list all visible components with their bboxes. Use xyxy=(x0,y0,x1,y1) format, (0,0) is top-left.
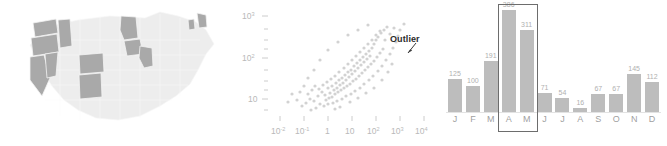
xtick-label-1: 1 xyxy=(325,126,330,136)
bar-d-11[interactable]: 112 xyxy=(645,6,659,112)
bar-n-10[interactable]: 145 xyxy=(627,6,641,112)
bar-o-9[interactable]: 67 xyxy=(609,6,623,112)
state-nm xyxy=(79,73,102,99)
scatter-plot-panel: 103 102 10 10-2 10-1 1 10 102 103 104 xyxy=(240,0,440,146)
state-vt xyxy=(188,19,195,30)
bar-s-8[interactable]: 67 xyxy=(591,6,605,112)
bar-chart-panel: 1251001913863117154166767145112 JFMAMJJA… xyxy=(440,0,667,146)
figure-canvas: 103 102 10 10-2 10-1 1 10 102 103 104 xyxy=(0,0,667,146)
bar-value-label: 67 xyxy=(603,85,629,93)
us-map-svg xyxy=(0,0,240,146)
bar-j-0[interactable]: 125 xyxy=(448,6,462,112)
outlier-annotation-label: Outlier xyxy=(390,34,420,44)
bar-a-7[interactable]: 16 xyxy=(573,6,587,112)
state-me xyxy=(197,13,207,28)
bar-rect xyxy=(591,94,605,112)
scatter-svg: 103 102 10 10-2 10-1 1 10 102 103 104 xyxy=(240,0,440,146)
state-mn xyxy=(120,16,138,40)
bar-value-label: 112 xyxy=(639,73,665,81)
scatter-points xyxy=(286,22,405,111)
xtick-label-10: 10 xyxy=(345,126,355,136)
bar-chart-baseline xyxy=(446,112,661,113)
xtick-label-0.01: 10-2 xyxy=(271,126,285,136)
bar-chart-plot-area: 1251001913863117154166767145112 xyxy=(446,6,661,112)
ytick-label-1000: 103 xyxy=(242,11,255,21)
bar-rect xyxy=(645,82,659,112)
xtick-label-10000: 104 xyxy=(415,126,428,136)
bar-chart-category-axis: JFMAMJJASOND xyxy=(446,114,661,132)
bar-value-label: 100 xyxy=(460,77,486,85)
xtick-label-1000: 103 xyxy=(391,126,404,136)
ytick-label-10: 10 xyxy=(248,94,258,104)
bar-value-label: 54 xyxy=(549,89,575,97)
bar-value-label: 145 xyxy=(621,65,647,73)
outlier-arrow-icon xyxy=(408,43,416,53)
bar-rect xyxy=(466,86,480,113)
xtick-label-0.1: 10-1 xyxy=(295,126,309,136)
category-label-11: D xyxy=(641,114,663,124)
state-id xyxy=(58,19,72,48)
scatter-x-axis xyxy=(280,116,424,121)
bar-chart-highlight-box[interactable] xyxy=(498,4,538,132)
bar-value-label: 16 xyxy=(567,99,593,107)
bar-j-6[interactable]: 54 xyxy=(555,6,569,112)
choropleth-map-panel xyxy=(0,0,240,146)
state-co xyxy=(79,53,104,74)
ytick-label-100: 102 xyxy=(242,53,255,63)
state-nv xyxy=(45,52,58,78)
bar-rect xyxy=(609,94,623,112)
xtick-label-100: 102 xyxy=(367,126,380,136)
bar-m-2[interactable]: 191 xyxy=(484,6,498,112)
bar-rect xyxy=(484,61,498,112)
scatter-y-axis xyxy=(262,16,268,110)
